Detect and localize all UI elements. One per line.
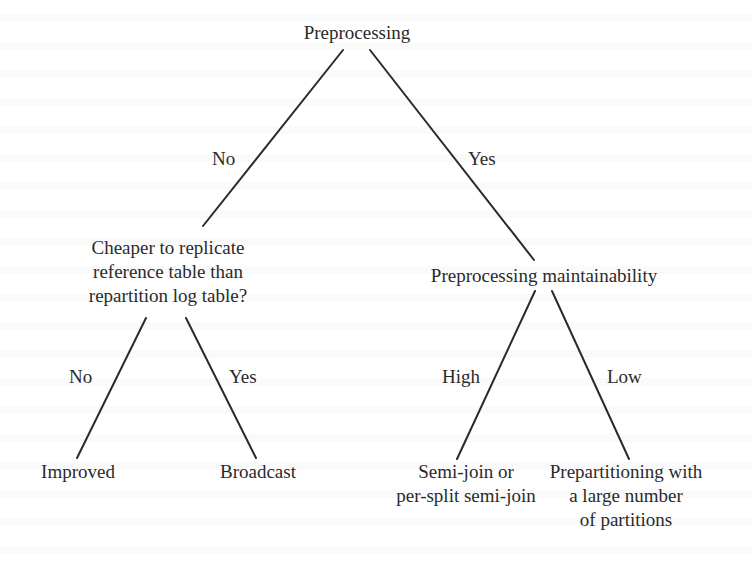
edge-root-yes xyxy=(370,50,534,260)
edge-label-root-yes: Yes xyxy=(468,147,496,171)
node-improved: Improved xyxy=(28,460,128,484)
decision-tree-diagram: Preprocessing Cheaper to replicate refer… xyxy=(0,0,752,566)
edge-label-text: High xyxy=(442,366,480,387)
node-label-line-3: repartition log table? xyxy=(60,284,276,308)
edge-label-text: No xyxy=(212,148,235,169)
edge-label-maint-high: High xyxy=(442,365,480,389)
edge-label-text: No xyxy=(69,366,92,387)
node-preprocessing: Preprocessing xyxy=(292,21,422,45)
edge-label-text: Yes xyxy=(229,366,257,387)
edge-root-no xyxy=(203,50,343,226)
node-label-line-2: a large number xyxy=(528,484,724,508)
node-label-line-3: of partitions xyxy=(528,508,724,532)
edge-label-text: Low xyxy=(607,366,642,387)
node-label: Preprocessing maintainability xyxy=(431,265,657,286)
edge-label-root-no: No xyxy=(212,147,235,171)
node-label-line-2: reference table than xyxy=(60,260,276,284)
edge-label-cheaper-yes: Yes xyxy=(229,365,257,389)
node-label-line-1: Semi-join or xyxy=(384,460,548,484)
node-label-line-1: Cheaper to replicate xyxy=(60,236,276,260)
node-label: Preprocessing xyxy=(304,22,411,43)
edge-label-maint-low: Low xyxy=(607,365,642,389)
node-label-line-1: Prepartitioning with xyxy=(528,460,724,484)
node-preprocessing-maintainability: Preprocessing maintainability xyxy=(400,264,688,288)
node-cheaper-to-replicate: Cheaper to replicate reference table tha… xyxy=(60,236,276,308)
node-label-line-2: per-split semi-join xyxy=(384,484,548,508)
node-broadcast: Broadcast xyxy=(206,460,310,484)
node-label: Broadcast xyxy=(220,461,296,482)
node-label: Improved xyxy=(41,461,115,482)
edge-label-cheaper-no: No xyxy=(69,365,92,389)
node-semi-join: Semi-join or per-split semi-join xyxy=(384,460,548,508)
node-prepartitioning: Prepartitioning with a large number of p… xyxy=(528,460,724,532)
edge-label-text: Yes xyxy=(468,148,496,169)
